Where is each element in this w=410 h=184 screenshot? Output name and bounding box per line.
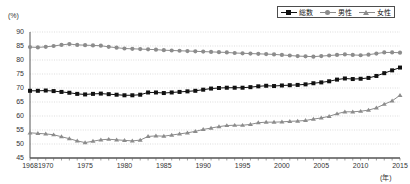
legend-label-total: 総数 [299,9,313,16]
x-axis-tick-1968: 1968 [22,162,38,169]
triangle-marker-icon [359,8,375,16]
series-circle-marker [28,42,402,59]
x-axis-tick-2015: 2015 [392,162,408,169]
y-axis-tick-70: 70 [6,84,24,91]
legend-item-female[interactable]: 女性 [359,8,391,16]
labor-force-participation-chart: (%) (年) 90858075706560555045 19681970197… [0,0,410,184]
data-series-layer [28,42,403,144]
x-axis-tick-2000: 2000 [274,162,290,169]
x-axis-tick-1985: 1985 [156,162,172,169]
y-axis-tick-60: 60 [6,112,24,119]
square-marker-icon [281,8,297,16]
series-square-marker [28,66,402,98]
plot-area [0,0,410,184]
y-axis-tick-55: 55 [6,126,24,133]
x-axis-tick-1995: 1995 [235,162,251,169]
legend-item-male[interactable]: 男性 [320,8,352,16]
x-axis-tick-1990: 1990 [195,162,211,169]
series-triangle-marker [28,93,403,144]
y-axis-tick-80: 80 [6,56,24,63]
chart-legend: 総数 男性 女性 [277,6,395,18]
y-axis-tick-90: 90 [6,28,24,35]
x-axis-tick-1975: 1975 [77,162,93,169]
y-axis-tick-85: 85 [6,42,24,49]
x-axis-tick-2005: 2005 [313,162,329,169]
legend-label-female: 女性 [377,9,391,16]
circle-marker-icon [320,8,336,16]
y-axis-tick-50: 50 [6,140,24,147]
y-axis-tick-45: 45 [6,154,24,161]
x-axis-tick-2010: 2010 [353,162,369,169]
legend-item-total[interactable]: 総数 [281,8,313,16]
x-axis-tick-1970: 1970 [38,162,54,169]
x-axis-tick-1980: 1980 [117,162,133,169]
y-axis-tick-75: 75 [6,70,24,77]
y-axis-tick-65: 65 [6,98,24,105]
legend-label-male: 男性 [338,9,352,16]
